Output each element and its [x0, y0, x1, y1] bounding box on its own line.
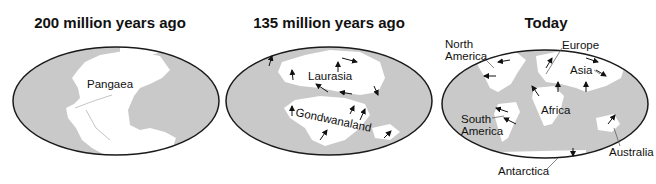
label-asia: Asia — [570, 64, 592, 76]
label-australia: Australia — [609, 146, 654, 158]
map-pangaea — [0, 0, 220, 184]
label-laurasia: Laurasia — [308, 70, 352, 82]
panel-today: Today North America Europe Asia Africa — [436, 0, 656, 184]
label-antarctica: Antarctica — [498, 165, 549, 177]
label-south-america: South America — [461, 113, 511, 137]
label-north-america: North America — [445, 38, 495, 62]
map-laurasia-gondwanaland — [220, 0, 438, 184]
panel-200mya: 200 million years ago Pangaea — [0, 0, 220, 184]
label-europe: Europe — [562, 39, 599, 51]
label-africa: Africa — [541, 104, 570, 116]
label-pangaea: Pangaea — [87, 78, 133, 90]
panel-135mya: 135 million years ago Laurasia Gondwanal… — [220, 0, 438, 184]
